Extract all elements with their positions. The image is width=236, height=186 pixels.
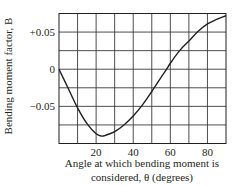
y-tick-label: +0.05 [30, 26, 56, 38]
x-tick-label: 60 [165, 146, 177, 158]
x-axis-title-line-2: considered, θ (degrees) [91, 171, 193, 184]
y-tick-label: 0 [50, 63, 56, 75]
x-axis-title-line-1: Angle at which bending moment is [65, 157, 219, 169]
plot-frame [59, 14, 226, 144]
x-tick-labels: 20406080 [91, 146, 214, 158]
y-tick-label: −0.05 [30, 100, 56, 112]
x-tick-label: 40 [128, 146, 140, 158]
y-tick-labels: +0.050−0.05 [30, 26, 56, 112]
bending-moment-chart: +0.050−0.05 20406080 Bending moment fact… [0, 0, 236, 186]
x-tick-label: 20 [91, 146, 103, 158]
x-tick-label: 80 [202, 146, 214, 158]
y-axis-title: Bending moment factor, B [2, 18, 14, 135]
grid-lines [59, 14, 226, 144]
bending-moment-curve [59, 16, 226, 136]
